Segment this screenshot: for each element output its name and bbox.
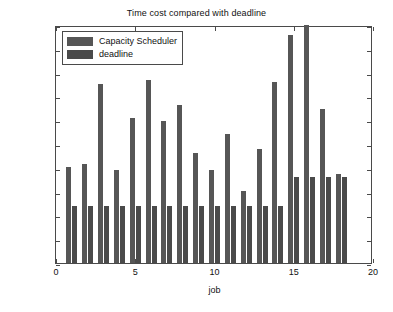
bar-capacity-scheduler-job-10 [209, 170, 214, 263]
bar-deadline-job-8 [183, 206, 188, 263]
x-tick-label: 5 [120, 267, 150, 277]
bar-capacity-scheduler-job-12 [241, 191, 246, 263]
bar-capacity-scheduler-job-13 [257, 149, 262, 263]
y-tick-mark [367, 170, 371, 171]
legend-swatch-deadline [67, 50, 93, 59]
bar-capacity-scheduler-job-17 [320, 109, 325, 263]
x-tick-mark [373, 259, 374, 263]
bar-capacity-scheduler-job-8 [177, 105, 182, 263]
chart-title: Time cost compared with deadline [0, 8, 393, 18]
y-tick-mark [56, 194, 60, 195]
y-tick-mark [367, 122, 371, 123]
x-tick-label: 0 [41, 267, 71, 277]
bar-capacity-scheduler-job-14 [272, 82, 277, 263]
x-tick-label: 15 [279, 267, 309, 277]
bar-deadline-job-6 [152, 206, 157, 263]
y-tick-mark [367, 98, 371, 99]
bar-deadline-job-1 [72, 206, 77, 263]
bar-capacity-scheduler-job-18 [336, 174, 341, 263]
bar-deadline-job-14 [278, 206, 283, 263]
bar-capacity-scheduler-job-16 [304, 25, 309, 263]
bar-capacity-scheduler-job-7 [161, 121, 166, 263]
y-tick-mark [367, 146, 371, 147]
x-tick-mark [56, 259, 57, 263]
x-tick-mark [373, 27, 374, 31]
y-tick-mark [367, 265, 371, 266]
legend-item-capacity-scheduler: Capacity Scheduler [67, 35, 177, 48]
legend-label-capacity-scheduler: Capacity Scheduler [99, 37, 177, 46]
y-tick-mark [367, 217, 371, 218]
bar-deadline-job-5 [136, 206, 141, 263]
chart-legend: Capacity Scheduler deadline [62, 31, 183, 65]
bar-deadline-job-4 [120, 206, 125, 263]
x-tick-mark [294, 27, 295, 31]
x-tick-label: 10 [200, 267, 230, 277]
x-tick-mark [294, 259, 295, 263]
x-tick-mark [135, 259, 136, 263]
y-tick-mark [56, 75, 60, 76]
bar-deadline-job-7 [167, 206, 172, 263]
bar-deadline-job-12 [247, 206, 252, 263]
bar-capacity-scheduler-job-6 [146, 80, 151, 263]
bar-deadline-job-17 [326, 177, 331, 263]
y-tick-mark [367, 241, 371, 242]
bar-deadline-job-10 [215, 206, 220, 263]
y-tick-mark [56, 98, 60, 99]
y-tick-mark [367, 51, 371, 52]
x-axis-label: job [56, 285, 373, 295]
legend-swatch-capacity-scheduler [67, 37, 93, 46]
y-tick-mark [367, 27, 371, 28]
bar-deadline-job-11 [231, 206, 236, 263]
y-tick-mark [56, 122, 60, 123]
legend-item-deadline: deadline [67, 48, 177, 61]
y-tick-mark [367, 194, 371, 195]
bar-capacity-scheduler-job-11 [225, 134, 230, 263]
legend-label-deadline: deadline [99, 50, 133, 59]
x-tick-mark [56, 27, 57, 31]
bar-capacity-scheduler-job-2 [82, 164, 87, 263]
bar-deadline-job-9 [199, 206, 204, 263]
plot-area: 05010015020025030035040045050005101520 C… [55, 26, 372, 264]
x-tick-mark [215, 27, 216, 31]
bar-capacity-scheduler-job-3 [98, 84, 103, 263]
y-tick-mark [367, 75, 371, 76]
y-tick-mark [56, 51, 60, 52]
bar-deadline-job-3 [104, 206, 109, 263]
x-tick-mark [215, 259, 216, 263]
chart-figure: Time cost compared with deadline time/s … [0, 0, 393, 312]
bar-capacity-scheduler-job-4 [114, 170, 119, 263]
bar-deadline-job-18 [342, 177, 347, 263]
bar-deadline-job-15 [294, 177, 299, 263]
y-tick-mark [56, 241, 60, 242]
bar-deadline-job-13 [263, 206, 268, 263]
y-tick-mark [56, 170, 60, 171]
bar-deadline-job-16 [310, 177, 315, 263]
x-tick-label: 20 [358, 267, 388, 277]
bar-deadline-job-2 [88, 206, 93, 263]
y-tick-mark [56, 265, 60, 266]
bar-capacity-scheduler-job-9 [193, 153, 198, 263]
y-tick-mark [56, 217, 60, 218]
y-tick-mark [56, 146, 60, 147]
bar-capacity-scheduler-job-15 [288, 35, 293, 263]
bar-capacity-scheduler-job-5 [130, 118, 135, 263]
bar-capacity-scheduler-job-1 [66, 167, 71, 263]
